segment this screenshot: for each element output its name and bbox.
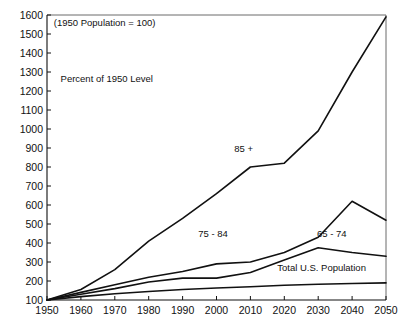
x-tick-label: 2030 <box>307 304 331 316</box>
x-tick-label: 1980 <box>137 304 161 316</box>
x-tick-label: 2040 <box>340 304 364 316</box>
y-tick-label: 800 <box>25 161 43 173</box>
annotation-1: (1950 Population = 100) <box>54 17 156 28</box>
x-tick-label: 1950 <box>35 304 59 316</box>
y-tick-label: 500 <box>25 218 43 230</box>
x-tick-label: 2010 <box>239 304 263 316</box>
y-tick-label: 1200 <box>20 85 44 97</box>
x-tick-label: 2000 <box>205 304 229 316</box>
y-tick-label: 1100 <box>20 104 43 116</box>
chart-background <box>0 0 401 332</box>
series-label-2: 75 - 84 <box>198 228 228 239</box>
y-tick-label: 1300 <box>20 66 44 78</box>
y-tick-label: 1500 <box>20 28 44 40</box>
x-tick-label: 2050 <box>374 304 398 316</box>
population-index-line-chart: 1002003004005006007008009001000110012001… <box>0 0 401 332</box>
y-tick-label: 300 <box>25 256 43 268</box>
series-label-1: 85 + <box>234 143 253 154</box>
y-tick-label: 200 <box>25 275 43 287</box>
series-label-3: 65 - 74 <box>317 228 347 239</box>
y-tick-label: 1400 <box>20 47 44 59</box>
x-tick-label: 1990 <box>171 304 195 316</box>
x-tick-label: 1970 <box>103 304 127 316</box>
y-tick-label: 600 <box>25 199 43 211</box>
y-tick-label: 700 <box>25 180 43 192</box>
y-tick-label: 1600 <box>20 9 44 21</box>
x-tick-label: 1960 <box>69 304 93 316</box>
series-label-4: Total U.S. Population <box>277 262 366 273</box>
y-tick-label: 900 <box>25 142 43 154</box>
x-tick-label: 2020 <box>273 304 297 316</box>
y-tick-label: 400 <box>25 237 43 249</box>
annotation-2: Percent of 1950 Level <box>61 73 153 84</box>
y-tick-label: 1000 <box>20 123 44 135</box>
chart-container: 1002003004005006007008009001000110012001… <box>0 0 401 332</box>
x-axis-tick-labels: 1950196019701980199020002010202020302040… <box>35 304 398 316</box>
